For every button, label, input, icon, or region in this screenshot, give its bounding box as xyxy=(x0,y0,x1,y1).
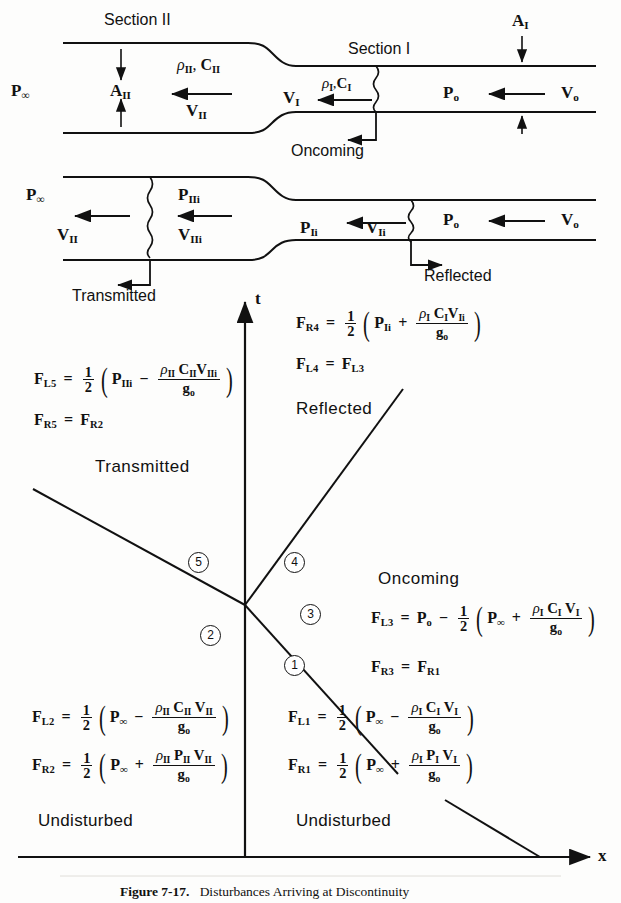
label-a-ii: AII xyxy=(110,82,131,101)
axis-label-t: t xyxy=(255,290,261,307)
circled-number-4: 4 xyxy=(284,552,305,573)
formula-f-l1: FL1 = 12 ( P∞ − ρI CI VI go ) xyxy=(288,700,474,736)
label-props-section-ii: ρII, CII xyxy=(177,57,220,76)
figure-caption: Figure 7-17. Disturbances Arriving at Di… xyxy=(120,884,409,900)
figure-title: Disturbances Arriving at Discontinuity xyxy=(200,884,410,899)
label-v-i-i: VIi xyxy=(366,219,386,238)
label-v-o-top: Vo xyxy=(561,84,579,103)
label-section-i: Section I xyxy=(348,41,410,57)
formula-f-r2: FR2 = 12 ( P∞ + ρII PII VII go ) xyxy=(32,748,227,784)
label-transmitted-duct: Transmitted xyxy=(72,288,156,304)
region-label-undisturbed-right: Undisturbed xyxy=(296,812,391,829)
label-v-ii-i: VIIi xyxy=(178,226,202,245)
axis-label-x: x xyxy=(598,847,607,864)
region-label-reflected: Reflected xyxy=(296,400,372,417)
formula-f-l4: FL4 = FL3 xyxy=(296,356,364,375)
label-p-o-bottom: Po xyxy=(443,211,459,230)
circled-number-1: 1 xyxy=(284,655,305,676)
region-label-oncoming: Oncoming xyxy=(378,570,459,587)
label-section-ii: Section II xyxy=(104,12,171,28)
region-label-undisturbed-left: Undisturbed xyxy=(38,812,133,829)
label-v-o-bottom: Vo xyxy=(561,211,579,230)
figure-number: Figure 7-17. xyxy=(120,884,190,899)
label-oncoming-duct: Oncoming xyxy=(291,143,364,159)
label-p-i-i: PIi xyxy=(300,219,318,238)
label-a-i: AI xyxy=(512,12,528,31)
formula-f-l5: FL5 = 12 ( PIIi − ρII CIIVIIi go ) xyxy=(34,362,233,398)
label-p-infinity-bottom: P∞ xyxy=(26,186,45,205)
formula-f-r1: FR1 = 12 ( P∞ + ρI PI VI go ) xyxy=(288,748,473,784)
label-p-o-top: Po xyxy=(443,84,459,103)
label-v-ii-bottom: VII xyxy=(57,226,78,245)
label-reflected-duct: Reflected xyxy=(424,268,492,284)
label-p-ii-i: PIIi xyxy=(178,186,200,205)
label-v-ii-top: VII xyxy=(186,102,207,121)
formula-f-l3: FL3 = Po − 12 ( P∞ + ρI CI VI go ) xyxy=(371,601,595,637)
formula-f-r4: FR4 = 12 ( PIi + ρI CIVIi go ) xyxy=(296,306,481,342)
label-v-i-top: VI xyxy=(283,89,299,108)
circled-number-5: 5 xyxy=(188,552,209,573)
circled-number-3: 3 xyxy=(300,604,321,625)
label-p-infinity-top: P∞ xyxy=(11,82,30,101)
figure-page: Section II Section I P∞ AII AI ρII, CII … xyxy=(0,0,621,903)
region-label-transmitted: Transmitted xyxy=(95,458,190,475)
formula-f-l2: FL2 = 12 ( P∞ − ρII CII VII go ) xyxy=(32,700,229,736)
circled-number-2: 2 xyxy=(200,625,221,646)
formula-f-r5: FR5 = FR2 xyxy=(34,412,103,431)
label-props-section-i: ρI,CI xyxy=(322,76,351,93)
formula-f-r3: FR3 = FR1 xyxy=(371,659,440,678)
